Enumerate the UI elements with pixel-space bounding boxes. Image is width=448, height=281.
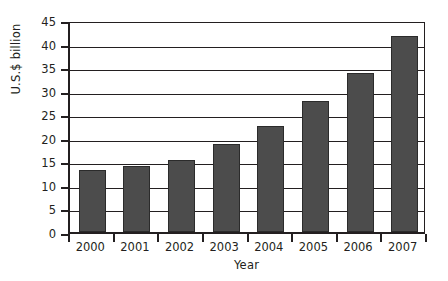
bar [391,36,418,232]
y-axis-tick-label: 35 [26,63,56,75]
bar [213,144,240,232]
x-axis-tick-label: 2001 [111,240,159,254]
y-axis-tick-label: 20 [26,134,56,146]
y-axis-tick [61,140,69,142]
plot-area [68,22,425,234]
y-axis-tick-label: 0 [26,228,56,240]
y-axis-tick-label: 45 [26,16,56,28]
y-axis-tick [61,69,69,71]
x-axis-tick-label: 2005 [289,240,337,254]
x-axis-tick-label: 2004 [245,240,293,254]
x-axis-tick-label: 2000 [66,240,114,254]
x-axis-tick-label: 2007 [379,240,427,254]
y-axis-title: U.S.$ billion [9,0,27,119]
y-axis-tick [61,46,69,48]
bar [168,160,195,232]
y-axis-tick [61,93,69,95]
y-axis-tick-label: 30 [26,87,56,99]
y-axis-tick [61,116,69,118]
y-axis-tick-label: 5 [26,204,56,216]
x-axis-tick-label: 2002 [156,240,204,254]
bar [79,170,106,232]
bar-chart-figure: U.S.$ billion 454035302520151050 2000200… [0,0,448,281]
y-axis-tick-label: 10 [26,181,56,193]
y-axis-tick [61,187,69,189]
bar [257,126,284,232]
bar [302,101,329,232]
y-axis-tick [61,210,69,212]
gridline [70,70,424,71]
bar [123,166,150,232]
y-axis-tick [61,163,69,165]
gridline [70,47,424,48]
y-axis-tick-label: 15 [26,157,56,169]
x-axis-tick-label: 2006 [334,240,382,254]
x-axis-title: Year [68,258,425,272]
x-axis-tick-label: 2003 [200,240,248,254]
bar [347,73,374,232]
y-axis-tick-label: 25 [26,110,56,122]
x-axis-tick [425,234,427,242]
y-axis-tick [61,22,69,24]
y-axis-tick-label: 40 [26,40,56,52]
